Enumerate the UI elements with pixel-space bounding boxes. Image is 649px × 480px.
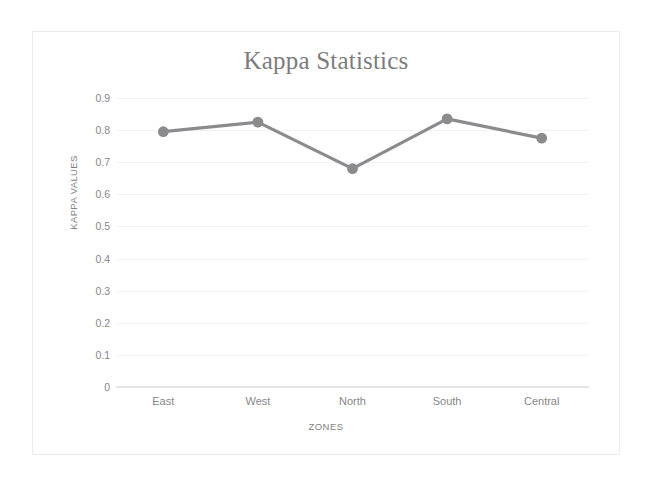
x-tick-label: East	[113, 395, 213, 407]
y-axis-tick-labels: 0.90.80.70.60.50.40.30.20.10	[55, 98, 110, 387]
y-tick-label: 0	[64, 381, 110, 393]
series-line	[163, 119, 541, 169]
x-tick-label: Central	[492, 395, 592, 407]
chart-title: Kappa Statistics	[33, 47, 619, 75]
y-tick-label: 0.6	[64, 188, 110, 200]
chart-figure: Kappa Statistics KAPPA VALUES 0.90.80.70…	[32, 31, 620, 455]
plot-area	[116, 98, 589, 387]
x-tick-label: North	[303, 395, 403, 407]
x-tick-label: West	[208, 395, 308, 407]
y-tick-label: 0.8	[64, 124, 110, 136]
data-point-marker	[253, 117, 264, 128]
x-tick-label: South	[397, 395, 497, 407]
y-tick-label: 0.2	[64, 317, 110, 329]
data-point-marker	[347, 163, 358, 174]
x-axis-title: ZONES	[33, 421, 619, 432]
line-series	[116, 98, 589, 387]
data-point-marker	[158, 126, 169, 137]
gridline	[116, 387, 589, 388]
y-tick-label: 0.9	[64, 92, 110, 104]
y-tick-label: 0.5	[64, 220, 110, 232]
y-tick-label: 0.1	[64, 349, 110, 361]
data-point-marker	[442, 113, 453, 124]
y-tick-label: 0.3	[64, 285, 110, 297]
y-tick-label: 0.7	[64, 156, 110, 168]
data-point-marker	[536, 133, 547, 144]
y-tick-label: 0.4	[64, 253, 110, 265]
